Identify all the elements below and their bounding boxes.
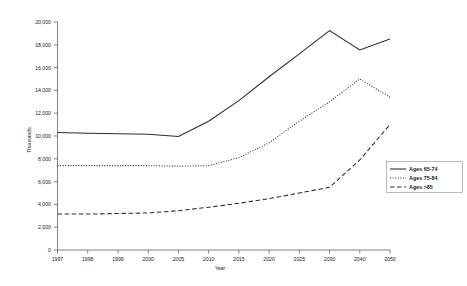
y-tick-label: 10,000 [35,133,51,139]
x-tick-label: 1998 [82,256,94,262]
legend-label: Ages 65-74 [409,166,437,172]
y-tick-label: 6,000 [38,179,51,185]
y-tick-label: 12,000 [35,110,51,116]
x-tick-label: 1997 [52,256,64,262]
y-tick-label: 18,000 [35,42,51,48]
y-tick-label: 14,000 [35,87,51,93]
x-tick-label: 1999 [112,256,124,262]
x-tick-label: 2040 [354,256,366,262]
x-tick-label: 2050 [384,256,396,262]
y-tick-label: 16,000 [35,65,51,71]
chart-background [0,0,467,286]
y-tick-label: 4,000 [38,201,51,207]
y-tick-label: 8,000 [38,156,51,162]
y-tick-label: 2,000 [38,224,51,230]
x-tick-label: 2020 [263,256,275,262]
line-chart: 02,0004,0006,0008,00010,00012,00014,0001… [0,0,467,286]
legend-label: Ages 75-84 [409,175,437,181]
x-tick-label: 2000 [142,256,154,262]
y-tick-label: 20,000 [35,19,51,25]
x-tick-label: 2025 [294,256,306,262]
x-tick-label: 2005 [173,256,185,262]
chart-legend: Ages 65-74Ages 75-84Ages >85 [387,162,463,193]
x-tick-label: 2015 [233,256,245,262]
y-axis-title: Thousands [26,127,32,153]
legend-label: Ages >85 [409,184,433,190]
x-tick-label: 2030 [324,256,336,262]
y-tick-label: 0 [48,247,51,253]
x-axis-title: Year [215,265,226,271]
x-tick-label: 2010 [203,256,215,262]
